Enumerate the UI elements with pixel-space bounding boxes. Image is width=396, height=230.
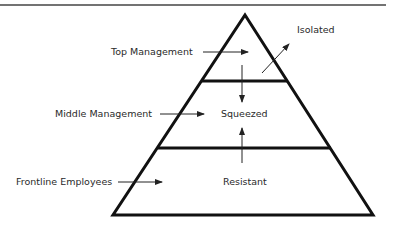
middle-management-label: Middle Management [55,109,152,119]
frontline-employees-label: Frontline Employees [16,177,112,187]
squeezed-label: Squeezed [221,109,268,119]
top-management-label: Top Management [111,47,193,57]
resistant-label: Resistant [223,177,267,187]
isolated-label: Isolated [297,25,335,35]
